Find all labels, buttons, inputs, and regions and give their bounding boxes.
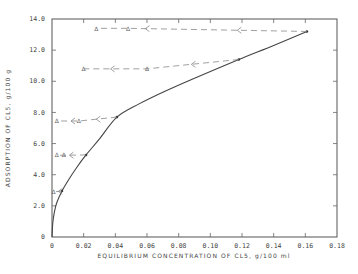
triangle-marker-icon: Δ <box>94 25 99 32</box>
desorption-path: ΔΔ <box>55 116 117 124</box>
x-tick-label: 0.12 <box>234 242 250 250</box>
arrow-left-icon <box>237 27 241 33</box>
y-tick-label: 8.0 <box>33 109 45 117</box>
x-tick-label: 0.02 <box>76 242 92 250</box>
arrow-left-icon <box>145 26 149 32</box>
y-tick-label: 12.0 <box>29 46 45 54</box>
y-axis-title: ADSORPTION OF CL5, g/100 g <box>4 69 12 187</box>
y-axis: 02.04.06.08.010.012.014.0 <box>29 15 337 241</box>
isotherm-curve <box>52 31 307 237</box>
series-layer: ΔΔΔΔΔΔΔΔΔ <box>52 25 309 237</box>
x-tick-label: 0.18 <box>329 242 345 250</box>
triangle-marker-icon: Δ <box>126 25 131 32</box>
dashed-line <box>84 59 239 68</box>
dashed-line <box>57 117 117 121</box>
plot-area <box>52 19 337 237</box>
x-tick-label: 0.16 <box>298 242 314 250</box>
x-tick-label: 0.06 <box>139 242 155 250</box>
x-tick-label: 0.14 <box>266 242 282 250</box>
y-tick-label: 4.0 <box>33 171 45 179</box>
triangle-marker-icon: Δ <box>55 117 60 124</box>
desorption-path: ΔΔ <box>94 25 307 34</box>
desorption-path: ΔΔ <box>82 59 239 72</box>
triangle-marker-icon: Δ <box>52 188 57 195</box>
x-tick-label: 0.10 <box>203 242 219 250</box>
adsorption-isotherm-chart: 00.020.040.060.080.100.120.140.160.18 02… <box>0 0 358 274</box>
triangle-marker-icon: Δ <box>55 151 60 158</box>
y-tick-label: 14.0 <box>29 15 45 23</box>
arrow-left-icon <box>96 116 100 122</box>
y-tick-label: 2.0 <box>33 202 45 210</box>
y-tick-label: 6.0 <box>33 140 45 148</box>
x-axis-title: EQUILIBRIUM CONCENTRATION OF CL5, g/100 … <box>97 252 290 260</box>
x-axis: 00.020.040.060.080.100.120.140.160.18 <box>50 19 345 250</box>
plot-border <box>52 19 337 237</box>
x-tick-label: 0 <box>50 242 54 250</box>
y-tick-label: 10.0 <box>29 77 45 85</box>
x-tick-label: 0.08 <box>171 242 187 250</box>
triangle-marker-icon: Δ <box>62 151 67 158</box>
x-tick-label: 0.04 <box>108 242 124 250</box>
desorption-path: ΔΔ <box>55 151 86 158</box>
y-tick-label: 0 <box>41 233 45 241</box>
